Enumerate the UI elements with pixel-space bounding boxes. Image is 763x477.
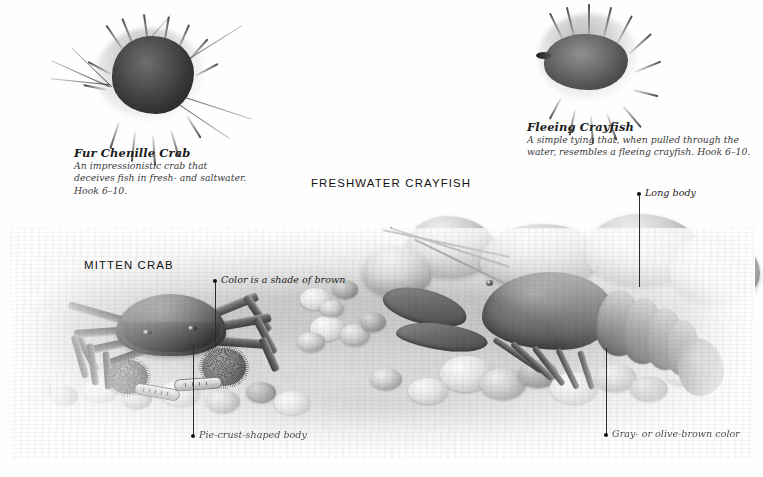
crab-leg	[210, 336, 268, 349]
stone	[665, 362, 699, 386]
crab-pincer	[174, 376, 223, 391]
fly-description-line: A simple tying that, when pulled through…	[527, 134, 762, 146]
crab-leg	[103, 351, 113, 389]
crab-leg	[207, 313, 272, 333]
crayfish-leg	[555, 348, 580, 390]
crab-leg	[67, 301, 129, 326]
crayfish-abdomen-segment	[596, 290, 642, 356]
crab-eye	[142, 330, 152, 335]
stone	[310, 316, 344, 341]
plate-title-mitten-crab: MITTEN CRAB	[84, 259, 174, 271]
stone	[18, 378, 52, 402]
crab-leg	[74, 326, 132, 338]
stone	[300, 288, 330, 310]
stone	[370, 368, 402, 390]
callout-label: Gray- or olive-brown color	[612, 428, 740, 439]
callout-leader-line	[193, 345, 194, 435]
crab-leg	[75, 334, 100, 373]
stone	[408, 378, 448, 404]
fly-description-line: An impressionistic crab that	[74, 160, 264, 172]
stone	[360, 312, 386, 332]
crayfish-claw	[379, 280, 471, 334]
fur-chenille-crab-fly-photo	[52, 12, 242, 132]
crayfish-leg	[577, 350, 595, 390]
crayfish-antenna	[390, 227, 510, 267]
callout-label: Pie-crust-shaped body	[199, 429, 307, 440]
callout-leader-line	[215, 283, 216, 346]
plate-title-freshwater-crayfish: FRESHWATER CRAYFISH	[311, 177, 471, 189]
stone	[480, 368, 526, 400]
crayfish-abdomen-segment	[622, 298, 664, 364]
crayfish-abdomen-segment	[646, 308, 684, 370]
callout-label: Long body	[645, 187, 696, 198]
stone	[82, 378, 118, 402]
stone	[26, 292, 52, 310]
crab-pincer	[133, 382, 180, 402]
crayfish-carapace	[482, 272, 614, 350]
crab-leg	[200, 292, 259, 323]
stone	[50, 386, 78, 406]
crayfish-abdomen-segment	[666, 320, 700, 376]
boulder	[362, 246, 432, 296]
fly-hackle-fringe	[104, 26, 204, 122]
fleeing-crayfish-fly-photo	[520, 8, 650, 112]
boulder	[405, 216, 497, 278]
crayfish-leg	[492, 337, 543, 374]
callout-label: Color is a shade of brown	[221, 274, 345, 285]
stone	[440, 356, 492, 392]
crayfish-leg	[510, 341, 554, 382]
stone	[320, 300, 344, 317]
crab-leg	[252, 316, 278, 355]
stone	[160, 380, 200, 406]
crab-leg	[103, 346, 147, 369]
crayfish-antenna	[414, 238, 508, 285]
crayfish-claw	[395, 318, 490, 357]
fly-name-fur-chenille-crab: Fur Chenille Crab	[74, 146, 190, 160]
boulder	[480, 224, 600, 290]
fly-description-fleeing-crayfish: A simple tying that, when pulled through…	[527, 134, 762, 159]
stone	[297, 332, 325, 352]
crayfish-tail-fan	[678, 338, 724, 396]
fly-name-fleeing-crayfish: Fleeing Crayfish	[527, 120, 634, 134]
stone	[595, 364, 637, 392]
stone	[122, 388, 152, 409]
fly-description-fur-chenille-crab: An impressionistic crab that deceives fi…	[74, 160, 264, 197]
stone	[550, 372, 598, 404]
crab-leg	[258, 336, 280, 372]
mitten-crab-carapace	[116, 294, 226, 356]
crab-leg	[90, 336, 139, 354]
mitten-claw-fur	[108, 360, 148, 394]
crayfish-antenna	[383, 229, 510, 258]
stone	[340, 324, 370, 346]
crab-leg	[87, 343, 100, 386]
crayfish-eye	[486, 280, 493, 286]
freshwater-crayfish-illustration	[390, 232, 720, 418]
fly-description-line: deceives fish in fresh- and saltwater.	[74, 172, 264, 184]
crab-leg	[71, 335, 90, 379]
callout-leader-line	[606, 348, 607, 434]
stone	[630, 376, 668, 402]
mitten-claw-fur	[202, 348, 246, 386]
plate-page: Fur Chenille Crab An impressionistic cra…	[0, 0, 763, 477]
stone	[694, 374, 734, 400]
fly-description-line: water, resembles a fleeing crayfish. Hoo…	[527, 146, 762, 158]
fly-hackle-fringe	[536, 12, 646, 110]
crab-carapace-shade	[122, 322, 220, 352]
stone	[246, 382, 276, 403]
stone	[518, 360, 558, 388]
stone	[274, 391, 310, 415]
crab-eye	[187, 326, 197, 331]
mitten-crab-illustration	[50, 274, 300, 404]
fly-description-line: Hook 6–10.	[74, 185, 264, 197]
boulder	[585, 214, 703, 286]
crab-leg	[243, 294, 273, 333]
boulder	[670, 234, 760, 304]
stone	[206, 390, 240, 413]
callout-leader-line	[639, 196, 640, 287]
crayfish-leg	[532, 345, 566, 387]
